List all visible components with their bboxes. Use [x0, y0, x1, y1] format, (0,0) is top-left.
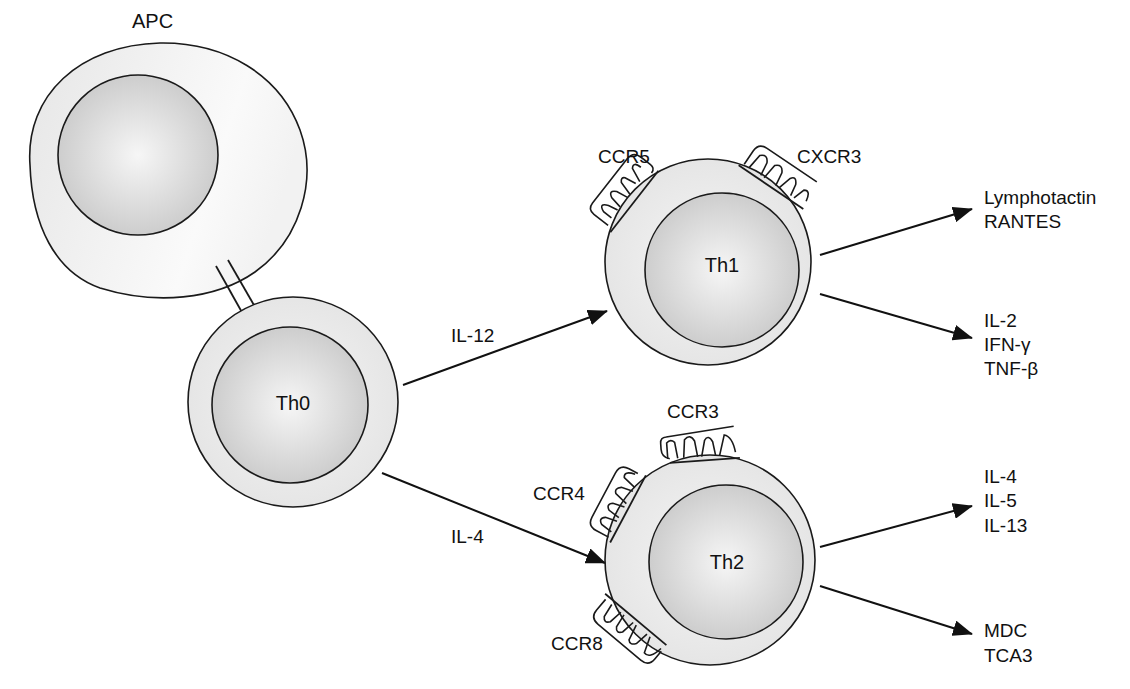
ccr8-label: CCR8	[551, 633, 603, 654]
output-ifn-gamma: IFN-γ	[984, 334, 1031, 355]
output-tca3: TCA3	[984, 645, 1033, 666]
apc-cell: APC	[30, 10, 307, 298]
th1-chemokine-list: Lymphotactin RANTES	[984, 187, 1096, 232]
th2-cell: Th2	[605, 455, 815, 665]
arrow-th1-chemokines	[820, 209, 972, 255]
output-il2: IL-2	[984, 310, 1017, 331]
output-rantes: RANTES	[984, 211, 1061, 232]
th1-label: Th1	[705, 254, 739, 276]
arrow-th2-cytokines	[820, 506, 972, 547]
arrow-th1-cytokines	[820, 294, 972, 338]
apc-label: APC	[132, 10, 173, 32]
il4-label: IL-4	[451, 526, 484, 547]
output-il4: IL-4	[984, 466, 1017, 487]
ccr4-label: CCR4	[533, 483, 585, 504]
th-differentiation-diagram: APC Th0 IL-12 IL-4 Th1 CCR5 CXCR3	[0, 0, 1130, 689]
arrow-th0-to-th1: IL-12	[403, 311, 607, 385]
th2-chemokine-list: MDC TCA3	[984, 620, 1033, 666]
th0-cell: Th0	[188, 297, 398, 507]
th1-cell: Th1	[605, 159, 811, 365]
th2-cytokine-list: IL-4 IL-5 IL-13	[984, 466, 1027, 536]
arrow-th2-chemokines	[820, 586, 972, 634]
il12-label: IL-12	[451, 325, 494, 346]
th2-label: Th2	[710, 551, 744, 573]
th0-label: Th0	[276, 392, 310, 414]
cxcr3-label: CXCR3	[797, 146, 861, 167]
output-il5: IL-5	[984, 490, 1017, 511]
apc-nucleus	[58, 75, 218, 235]
ccr3-label: CCR3	[667, 401, 719, 422]
output-lymphotactin: Lymphotactin	[984, 187, 1096, 208]
output-tnf-beta: TNF-β	[984, 358, 1038, 379]
output-mdc: MDC	[984, 620, 1027, 641]
th1-cytokine-list: IL-2 IFN-γ TNF-β	[984, 310, 1038, 379]
output-il13: IL-13	[984, 515, 1027, 536]
ccr5-label: CCR5	[598, 146, 650, 167]
